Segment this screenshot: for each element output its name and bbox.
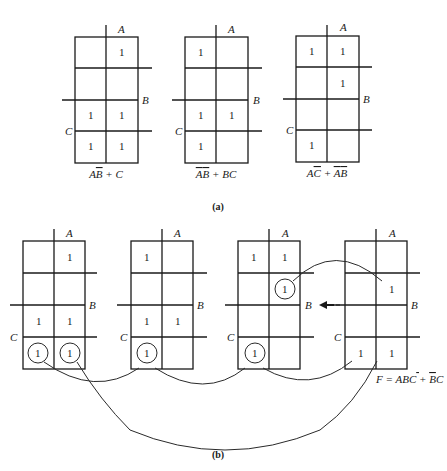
cell-one: 1 <box>389 347 395 359</box>
label-b: B <box>142 94 149 106</box>
expression-a1: AB + C <box>88 168 123 180</box>
label-b: B <box>305 299 312 311</box>
cell-one: 1 <box>389 283 395 295</box>
cell-one: 1 <box>198 46 204 58</box>
label-c: C <box>286 124 294 136</box>
cell-one: 1 <box>309 139 315 151</box>
cell-one: 1 <box>282 283 288 295</box>
cell-one: 1 <box>309 45 315 57</box>
kmap-b1: A B C 1 1 1 1 1 <box>10 227 97 369</box>
karnaugh-figure: A B C 1 1 1 1 1 AB + C A B C 1 1 1 1 AB … <box>0 0 447 471</box>
cell-one: 1 <box>119 46 125 58</box>
cell-one: 1 <box>358 347 364 359</box>
label-c: C <box>227 331 235 343</box>
label-a: A <box>388 227 396 239</box>
label-a: A <box>65 227 73 239</box>
label-a: A <box>173 227 181 239</box>
label-c: C <box>65 125 73 137</box>
kmap-a1: A B C 1 1 1 1 1 AB + C <box>62 23 152 180</box>
label-c: C <box>334 331 342 343</box>
cell-one: 1 <box>88 140 94 152</box>
kmap-b4: A B C 1 1 1 F = ABC + BC <box>332 227 444 385</box>
cell-one: 1 <box>36 315 42 327</box>
label-b: B <box>363 93 370 105</box>
label-a: A <box>117 23 125 35</box>
label-b: B <box>411 299 418 311</box>
cell-one: 1 <box>144 251 150 263</box>
cell-one: 1 <box>119 109 125 121</box>
result-expression: F = ABC + BC <box>375 373 444 385</box>
cell-one: 1 <box>340 45 346 57</box>
label-a: A <box>227 23 235 35</box>
caption-b: (b) <box>212 449 224 461</box>
cell-one: 1 <box>282 251 288 263</box>
cell-one: 1 <box>175 315 181 327</box>
cell-one: 1 <box>67 251 73 263</box>
cell-one: 1 <box>229 109 235 121</box>
kmap-a3: A B C 1 1 1 1 AC + AB <box>283 21 372 179</box>
cell-one: 1 <box>144 347 150 359</box>
cell-one: 1 <box>251 251 257 263</box>
label-b: B <box>197 299 204 311</box>
label-a: A <box>339 21 347 33</box>
label-b: B <box>89 299 96 311</box>
label-c: C <box>10 331 18 343</box>
kmap-b3: A B C 1 1 1 1 <box>225 227 314 369</box>
cell-one: 1 <box>252 347 258 359</box>
cell-one: 1 <box>198 109 204 121</box>
label-b: B <box>253 94 260 106</box>
cell-one: 1 <box>144 315 150 327</box>
cell-one: 1 <box>35 347 41 359</box>
label-a: A <box>281 227 289 239</box>
cell-one: 1 <box>67 347 73 359</box>
label-c: C <box>175 125 183 137</box>
label-c: C <box>120 331 128 343</box>
cell-one: 1 <box>119 140 125 152</box>
cell-one: 1 <box>67 315 73 327</box>
cell-one: 1 <box>340 77 346 89</box>
caption-a: (a) <box>212 201 224 213</box>
cell-one: 1 <box>198 140 204 152</box>
kmap-a2: A B C 1 1 1 1 AB + BC <box>172 23 262 180</box>
expression-a2: AB + BC <box>195 168 237 180</box>
kmap-b2: A B C 1 1 1 1 <box>117 227 207 369</box>
expression-a3: AC + AB <box>306 167 348 179</box>
connector-curves <box>44 261 382 451</box>
cell-one: 1 <box>88 109 94 121</box>
